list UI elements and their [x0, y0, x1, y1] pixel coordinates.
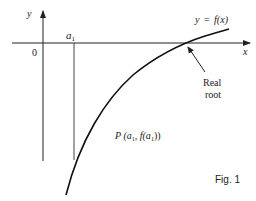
real-root-label-2: root: [205, 89, 221, 100]
real-root-label: Real: [203, 77, 222, 88]
curve-label: y = f(x): [194, 14, 229, 26]
figure-caption: Fig. 1: [215, 174, 240, 185]
x-axis-label: x: [242, 46, 248, 57]
point-p-label: P (a1, f(a1)): [114, 130, 161, 142]
a1-label: a1: [66, 29, 76, 43]
newton-raphson-diagram: y x 0 a1 y = f(x) Real root P (a1, f(a1)…: [0, 0, 256, 201]
root-pointer-arrow: [188, 47, 205, 72]
y-axis-label: y: [26, 8, 32, 19]
origin-label: 0: [32, 47, 37, 58]
function-curve: [66, 29, 229, 195]
